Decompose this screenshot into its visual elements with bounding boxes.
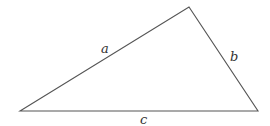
triangle-diagram: a b c (0, 0, 270, 126)
side-label-c: c (140, 112, 148, 126)
side-label-a: a (101, 41, 109, 56)
side-label-b: b (230, 49, 238, 64)
triangle-shape (20, 7, 258, 111)
